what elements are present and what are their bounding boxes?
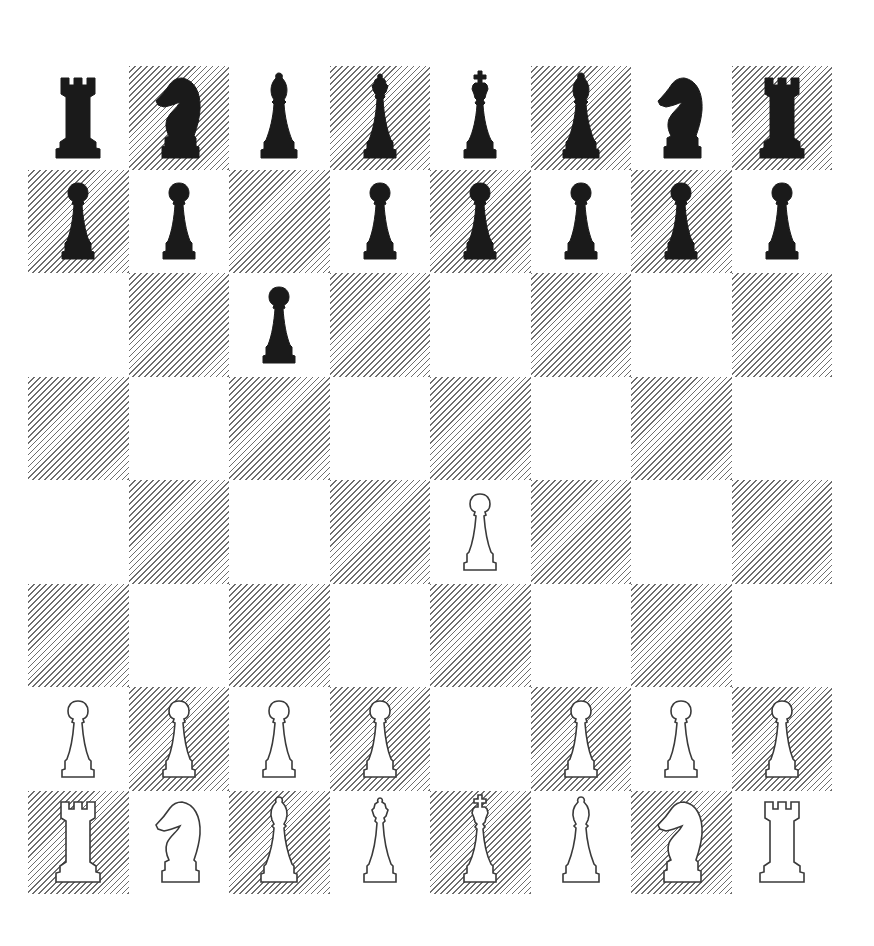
square-c5[interactable] [229,377,330,481]
black-knight-icon[interactable]: black knight [144,70,214,166]
black-pawn-icon[interactable]: black pawn [546,173,616,269]
square-b7[interactable]: black pawn [129,170,230,274]
square-d2[interactable]: white pawn [330,687,431,791]
white-pawn-icon[interactable]: white pawn [144,691,214,787]
white-pawn-icon[interactable]: white pawn [445,484,515,580]
square-a5[interactable] [28,377,129,481]
square-e4[interactable]: white pawn [430,480,531,584]
square-g1[interactable]: white knight [631,791,732,895]
square-e6[interactable] [430,273,531,377]
piece-label: white rook [43,890,44,891]
white-rook-icon[interactable]: white rook [43,794,113,890]
white-pawn-icon[interactable]: white pawn [244,691,314,787]
white-knight-icon[interactable]: white knight [646,794,716,890]
piece-label: black pawn [43,269,44,270]
square-b8[interactable]: black knight [129,66,230,170]
black-pawn-icon[interactable]: black pawn [244,277,314,373]
square-d4[interactable] [330,480,431,584]
square-d7[interactable]: black pawn [330,170,431,274]
square-g8[interactable]: black knight [631,66,732,170]
square-b6[interactable] [129,273,230,377]
square-h8[interactable]: black rook [732,66,833,170]
square-c4[interactable] [229,480,330,584]
black-king-icon[interactable]: black king [445,70,515,166]
square-a6[interactable] [28,273,129,377]
square-h6[interactable] [732,273,833,377]
square-f8[interactable]: black bishop [531,66,632,170]
square-d1[interactable]: white queen [330,791,431,895]
piece-label: black king [445,166,446,167]
square-e7[interactable]: black pawn [430,170,531,274]
square-g5[interactable] [631,377,732,481]
square-b5[interactable] [129,377,230,481]
black-rook-icon[interactable]: black rook [43,70,113,166]
square-d6[interactable] [330,273,431,377]
black-pawn-icon[interactable]: black pawn [747,173,817,269]
black-bishop-icon[interactable]: black bishop [244,70,314,166]
square-b4[interactable] [129,480,230,584]
white-pawn-icon[interactable]: white pawn [345,691,415,787]
square-c2[interactable]: white pawn [229,687,330,791]
white-pawn-icon[interactable]: white pawn [43,691,113,787]
square-c6[interactable]: black pawn [229,273,330,377]
piece-label: black pawn [345,269,346,270]
square-g6[interactable] [631,273,732,377]
square-f1[interactable]: white bishop [531,791,632,895]
black-knight-icon[interactable]: black knight [646,70,716,166]
black-rook-icon[interactable]: black rook [747,70,817,166]
white-pawn-icon[interactable]: white pawn [546,691,616,787]
square-d8[interactable]: black queen [330,66,431,170]
black-pawn-icon[interactable]: black pawn [445,173,515,269]
square-f6[interactable] [531,273,632,377]
square-f3[interactable] [531,584,632,688]
square-b3[interactable] [129,584,230,688]
square-g2[interactable]: white pawn [631,687,732,791]
square-h4[interactable] [732,480,833,584]
white-rook-icon[interactable]: white rook [747,794,817,890]
square-e1[interactable]: white king [430,791,531,895]
black-bishop-icon[interactable]: black bishop [546,70,616,166]
square-a8[interactable]: black rook [28,66,129,170]
square-d3[interactable] [330,584,431,688]
square-d5[interactable] [330,377,431,481]
square-h7[interactable]: black pawn [732,170,833,274]
square-h1[interactable]: white rook [732,791,833,895]
square-g3[interactable] [631,584,732,688]
square-c1[interactable]: white bishop [229,791,330,895]
square-a2[interactable]: white pawn [28,687,129,791]
black-pawn-icon[interactable]: black pawn [43,173,113,269]
white-queen-icon[interactable]: white queen [345,794,415,890]
square-b1[interactable]: white knight [129,791,230,895]
white-pawn-icon[interactable]: white pawn [646,691,716,787]
square-h5[interactable] [732,377,833,481]
white-bishop-icon[interactable]: white bishop [244,794,314,890]
square-c3[interactable] [229,584,330,688]
square-h3[interactable] [732,584,833,688]
square-e2[interactable] [430,687,531,791]
square-c7[interactable] [229,170,330,274]
black-pawn-icon[interactable]: black pawn [646,173,716,269]
square-b2[interactable]: white pawn [129,687,230,791]
black-pawn-icon[interactable]: black pawn [144,173,214,269]
square-f7[interactable]: black pawn [531,170,632,274]
square-e5[interactable] [430,377,531,481]
square-a4[interactable] [28,480,129,584]
white-pawn-icon[interactable]: white pawn [747,691,817,787]
square-c8[interactable]: black bishop [229,66,330,170]
white-knight-icon[interactable]: white knight [144,794,214,890]
square-f4[interactable] [531,480,632,584]
square-g7[interactable]: black pawn [631,170,732,274]
white-bishop-icon[interactable]: white bishop [546,794,616,890]
square-a7[interactable]: black pawn [28,170,129,274]
black-pawn-icon[interactable]: black pawn [345,173,415,269]
square-e3[interactable] [430,584,531,688]
square-f5[interactable] [531,377,632,481]
square-h2[interactable]: white pawn [732,687,833,791]
black-queen-icon[interactable]: black queen [345,70,415,166]
square-e8[interactable]: black king [430,66,531,170]
square-a1[interactable]: white rook [28,791,129,895]
white-king-icon[interactable]: white king [445,794,515,890]
square-g4[interactable] [631,480,732,584]
square-a3[interactable] [28,584,129,688]
square-f2[interactable]: white pawn [531,687,632,791]
